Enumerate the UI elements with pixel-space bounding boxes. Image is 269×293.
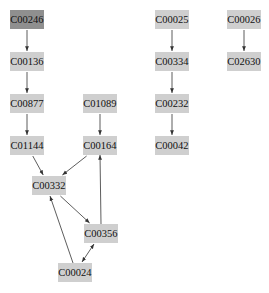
node-C00877[interactable]: C00877 xyxy=(10,94,44,113)
node-layer: C00246C00136C00877C01144C01089C00164C003… xyxy=(10,10,261,282)
node-label: C00356 xyxy=(84,228,117,239)
node-label: C00877 xyxy=(10,98,43,109)
node-C00042[interactable]: C00042 xyxy=(155,136,189,155)
node-label: C01089 xyxy=(83,98,116,109)
node-label: C00332 xyxy=(32,180,65,191)
node-label: C00024 xyxy=(58,267,92,278)
node-C00356[interactable]: C00356 xyxy=(84,224,118,243)
edge-C00024-C00332 xyxy=(50,196,73,263)
node-C01144[interactable]: C01144 xyxy=(10,136,44,155)
edge-C00332-C00356 xyxy=(60,196,89,223)
edge-C00356-C00164 xyxy=(100,155,101,224)
node-label: C00232 xyxy=(155,98,188,109)
node-C01089[interactable]: C01089 xyxy=(83,94,117,113)
node-label: C00026 xyxy=(227,14,260,25)
node-label: C00246 xyxy=(10,14,43,25)
node-C00164[interactable]: C00164 xyxy=(83,136,117,155)
node-label: C00042 xyxy=(155,140,188,151)
node-label: C01144 xyxy=(11,140,45,151)
node-label: C00025 xyxy=(155,14,188,25)
node-C00026[interactable]: C00026 xyxy=(227,10,261,29)
node-C00232[interactable]: C00232 xyxy=(155,94,189,113)
node-C00136[interactable]: C00136 xyxy=(10,52,44,71)
node-label: C00334 xyxy=(155,56,189,67)
edge-C00164-C00332 xyxy=(62,156,86,175)
node-C00246[interactable]: C00246 xyxy=(10,10,44,29)
node-C02630[interactable]: C02630 xyxy=(227,52,261,71)
node-C00024[interactable]: C00024 xyxy=(58,263,92,282)
edge-C00356-C00024 xyxy=(82,244,94,262)
node-C00025[interactable]: C00025 xyxy=(155,10,189,29)
node-C00334[interactable]: C00334 xyxy=(155,52,189,71)
node-label: C00136 xyxy=(10,56,43,67)
node-C00332[interactable]: C00332 xyxy=(32,176,66,195)
edge-layer xyxy=(27,30,244,263)
compound-graph: C00246C00136C00877C01144C01089C00164C003… xyxy=(0,0,269,293)
edge-C01144-C00332 xyxy=(33,156,43,175)
node-label: C00164 xyxy=(83,140,117,151)
node-label: C02630 xyxy=(227,56,260,67)
